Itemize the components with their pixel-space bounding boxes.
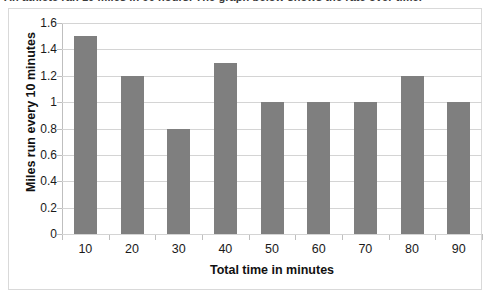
x-tick-label: 80 — [389, 243, 435, 256]
x-tick-mark — [482, 235, 483, 240]
x-tick-mark — [389, 235, 390, 240]
x-tick-label: 70 — [342, 243, 388, 256]
cutoff-caption-strip: An athlete ran 10 miles in 90 hours. The… — [0, 0, 492, 7]
x-tick-label: 40 — [202, 243, 248, 256]
chart-container: 1.61.41.210.80.60.40.20 1020304050607080… — [8, 8, 482, 290]
bar — [74, 36, 97, 234]
x-tick-label: 10 — [62, 243, 108, 256]
x-tick-mark — [202, 235, 203, 240]
bar — [447, 102, 470, 234]
gridline — [62, 49, 482, 50]
gridline — [62, 23, 482, 24]
bar — [401, 76, 424, 234]
bar — [167, 129, 190, 235]
bar — [261, 102, 284, 234]
y-axis-title: Miles run every 10 minutes — [24, 22, 38, 202]
bar — [307, 102, 330, 234]
x-axis-title: Total time in minutes — [62, 263, 482, 277]
x-tick-label: 20 — [109, 243, 155, 256]
bar — [354, 102, 377, 234]
y-tick-label: 0 — [13, 228, 57, 240]
y-tick-mark — [57, 208, 62, 209]
x-tick-label: 60 — [296, 243, 342, 256]
x-tick-label: 30 — [156, 243, 202, 256]
y-tick-mark — [57, 23, 62, 24]
x-tick-mark — [435, 235, 436, 240]
x-tick-mark — [249, 235, 250, 240]
gridline — [62, 234, 482, 235]
y-tick-mark — [57, 234, 62, 235]
x-tick-mark — [109, 235, 110, 240]
x-tick-mark — [295, 235, 296, 240]
y-tick-label: 0.2 — [13, 202, 57, 214]
y-tick-mark — [57, 76, 62, 77]
x-tick-label: 50 — [249, 243, 295, 256]
y-tick-mark — [57, 49, 62, 50]
bar — [214, 63, 237, 234]
x-tick-mark — [62, 235, 63, 240]
bar — [121, 76, 144, 234]
x-tick-label: 90 — [436, 243, 482, 256]
y-tick-mark — [57, 102, 62, 103]
x-tick-mark — [342, 235, 343, 240]
y-tick-mark — [57, 129, 62, 130]
plot-area — [62, 23, 482, 234]
cutoff-caption-text: An athlete ran 10 miles in 90 hours. The… — [4, 0, 422, 3]
y-tick-mark — [57, 181, 62, 182]
y-tick-mark — [57, 155, 62, 156]
x-tick-mark — [155, 235, 156, 240]
